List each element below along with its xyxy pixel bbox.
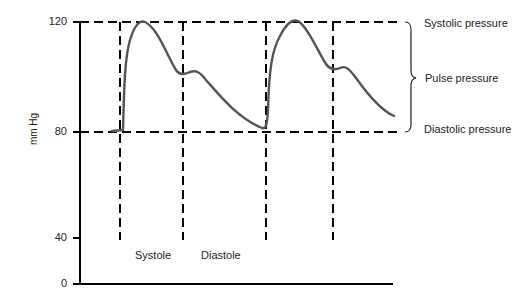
diastole-label: Diastole [201,250,241,261]
pressure-diagram [0,0,531,304]
tick-label-80: 80 [43,126,67,137]
tick-label-0: 0 [43,278,67,289]
pulse-pressure-label: Pulse pressure [425,73,498,84]
y-axis-label: mm Hg [29,113,39,145]
tick-label-40: 40 [43,232,67,243]
tick-label-120: 120 [43,16,67,27]
pressure-waveform [112,20,394,131]
systolic-pressure-label: Systolic pressure [424,18,508,29]
systole-label: Systole [135,250,171,261]
diastolic-pressure-label: Diastolic pressure [424,124,511,135]
pulse-pressure-brace [405,22,416,132]
